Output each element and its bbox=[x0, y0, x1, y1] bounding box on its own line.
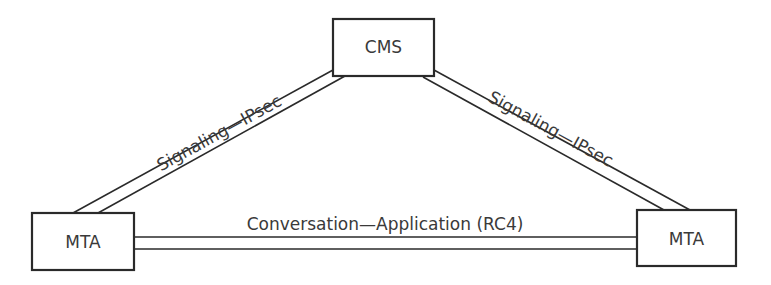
node-cms: CMS bbox=[333, 19, 434, 76]
node-mta-right: MTA bbox=[637, 210, 736, 266]
network-security-diagram: CMS MTA MTA Signaling—IPsec Signaling—IP… bbox=[0, 0, 771, 285]
node-mta-right-label: MTA bbox=[669, 229, 705, 249]
edge-line-inner bbox=[98, 76, 345, 213]
edge-label-conversation: Conversation—Application (RC4) bbox=[247, 214, 524, 234]
edge-label-left-signaling: Signaling—IPsec bbox=[153, 90, 285, 175]
edge-label-right-signaling: Signaling—IPsec bbox=[485, 87, 617, 171]
node-mta-left-label: MTA bbox=[65, 232, 101, 252]
node-cms-label: CMS bbox=[365, 37, 402, 57]
edge-line-inner bbox=[423, 77, 664, 210]
edge-mta-left-mta-right bbox=[134, 237, 637, 249]
node-mta-left: MTA bbox=[32, 213, 134, 270]
